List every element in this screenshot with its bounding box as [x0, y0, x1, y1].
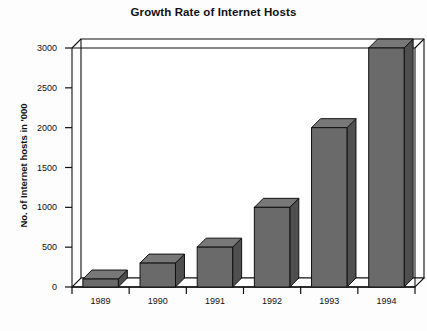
bar-1989	[83, 270, 127, 287]
bar-1991	[197, 238, 241, 287]
x-tick-label: 1994	[376, 296, 396, 306]
x-tick-label: 1991	[205, 296, 225, 306]
x-tick-label: 1990	[148, 296, 168, 306]
x-tick-label: 1992	[262, 296, 282, 306]
bar-1993	[312, 119, 356, 287]
bar-1994	[369, 39, 413, 287]
bar-1992	[254, 198, 298, 287]
x-tick-label: 1989	[91, 296, 111, 306]
bar-chart: Growth Rate of Internet Hosts No. of Int…	[0, 0, 427, 331]
bar-1990	[140, 254, 184, 287]
plot-area	[0, 0, 427, 331]
x-tick-label: 1993	[319, 296, 339, 306]
axis-ticks	[65, 48, 72, 287]
